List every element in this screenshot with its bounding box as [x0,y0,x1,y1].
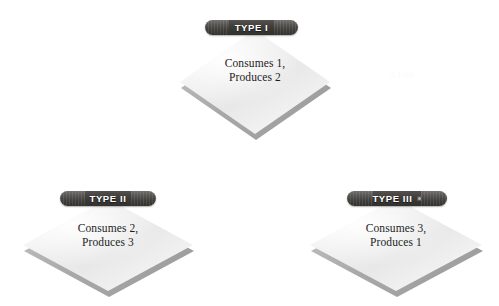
node-type-3[interactable]: Consumes 3, Produces 1 TYPE III [307,195,485,299]
node-body-text-type-1: Consumes 1, Produces 2 [178,56,332,85]
node-body-text-type-3: Consumes 3, Produces 1 [307,221,485,250]
node-body-text-type-2: Consumes 2, Produces 3 [20,221,196,250]
diagram-canvas: A100 Consumes 1, Produces 2 TYPE I Consu… [0,0,499,306]
banner-type-2[interactable]: TYPE II [60,191,156,206]
banner-label-type-2: TYPE II [90,193,127,204]
node-type-2[interactable]: Consumes 2, Produces 3 TYPE II [20,195,196,299]
banner-label-type-3: TYPE III [372,193,412,204]
node-type-1[interactable]: Consumes 1, Produces 2 TYPE I [178,26,332,138]
banner-type-3[interactable]: TYPE III [347,191,447,206]
scan-artifact-faint: A100 [388,68,414,80]
banner-label-type-1: TYPE I [235,22,269,33]
banner-type-1[interactable]: TYPE I [205,20,298,35]
scan-speck-icon [417,196,422,201]
